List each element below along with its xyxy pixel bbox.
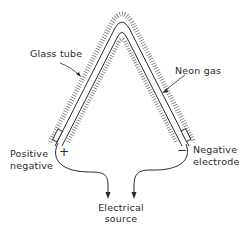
electrical-source-label-line1: Electrical [95,202,147,213]
plus-symbol: + [59,147,69,158]
neon-gas-label: Neon gas [175,65,221,76]
electrical-source-label-line2: source [95,213,147,224]
minus-symbol: − [177,145,187,156]
negative-label-line1: Negative [193,144,237,155]
positive-label-line1: Positive [10,148,48,159]
neon-gas-leader [165,75,185,91]
inner-hatching [68,40,176,143]
diagram-canvas [0,0,246,232]
positive-electrode [53,129,63,142]
positive-wire-arrow-icon [106,192,111,199]
glass-tube-leader [60,63,79,75]
neon-tube-diagram: Glass tube Neon gas Positive negative Ne… [0,0,246,232]
positive-label-line2: negative [10,160,53,171]
negative-wire-arrow-icon [132,192,137,199]
negative-electrode [181,129,191,142]
negative-label-line2: electrode [193,156,239,167]
glass-tube-label: Glass tube [30,48,82,59]
outer-hatching [50,14,194,142]
